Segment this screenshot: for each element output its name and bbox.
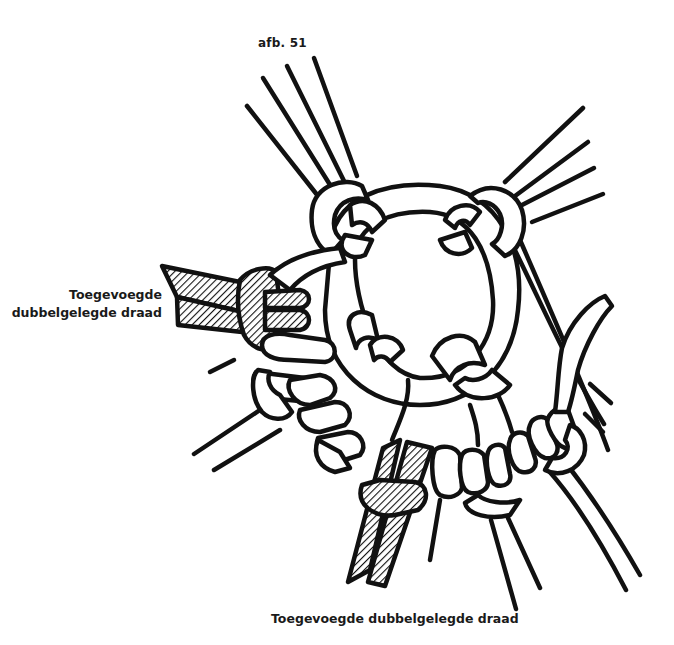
macrame-illustration (0, 0, 674, 645)
left-added-doubled-cord (162, 248, 345, 350)
figure-page: afb. 51 (0, 0, 674, 645)
bottom-added-doubled-cord (348, 440, 432, 586)
bottom-cord-label: Toegevoegde dubbelgelegde draad (271, 611, 519, 626)
bottom-knot-row (432, 296, 612, 517)
left-cord-label-line2: dubbelgelegde draad (12, 304, 162, 322)
top-left-strands (247, 58, 357, 196)
left-cord-label-line1: Toegevoegde (12, 286, 162, 304)
left-cord-label: Toegevoegde dubbelgelegde draad (12, 286, 162, 322)
